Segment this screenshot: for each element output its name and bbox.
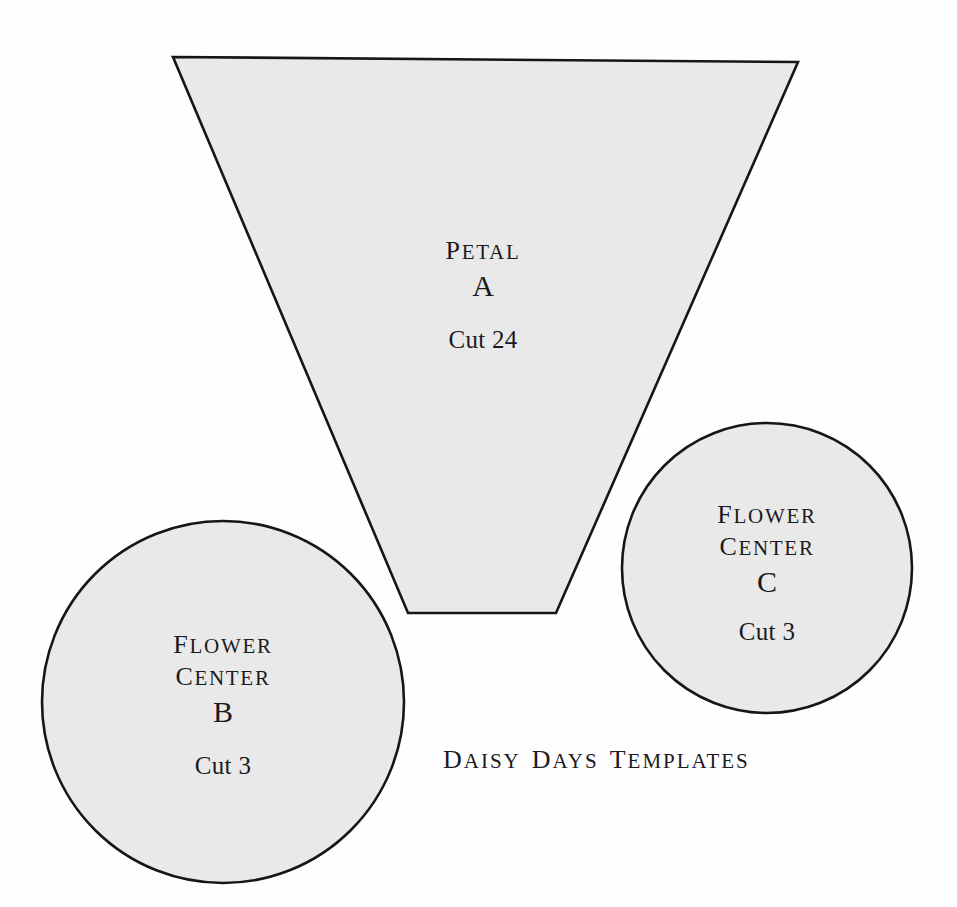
caption-word-3: TEMPLATES [610,754,750,771]
caption-word-2: DAYS [532,754,599,771]
flower-center-b-shape[interactable] [42,521,404,883]
template-sheet: PETAL A Cut 24 FLOWER CENTER B Cut 3 FLO… [0,0,957,907]
flower-center-c-shape[interactable] [622,423,912,713]
sheet-caption: DAISYDAYSTEMPLATES [443,745,750,775]
caption-word-1: DAISY [443,754,521,771]
